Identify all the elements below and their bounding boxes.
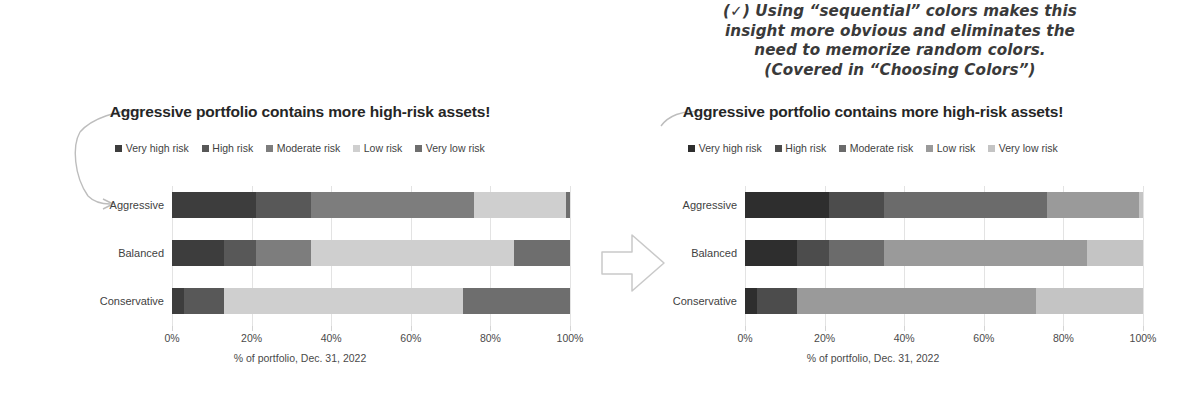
legend-item-low-risk: Low risk bbox=[926, 142, 975, 154]
bar-segment[interactable] bbox=[172, 192, 256, 218]
category-label-conservative: Conservative bbox=[615, 288, 737, 314]
x-tick-mark bbox=[1143, 326, 1144, 331]
chart-panel-random-colors: Aggressive portfolio contains more high-… bbox=[0, 0, 600, 405]
legend-swatch-icon bbox=[353, 145, 360, 152]
legend-swatch-icon bbox=[688, 145, 695, 152]
legend-swatch-icon bbox=[415, 145, 422, 152]
bar-segment[interactable] bbox=[311, 240, 514, 266]
x-tick-mark bbox=[570, 326, 571, 331]
bar-segment[interactable] bbox=[745, 240, 797, 266]
x-tick-mark bbox=[825, 326, 826, 331]
legend-item-moderate-risk: Moderate risk bbox=[266, 142, 340, 154]
bar-segment[interactable] bbox=[757, 288, 797, 314]
bar-segment[interactable] bbox=[829, 240, 885, 266]
legend-swatch-icon bbox=[202, 145, 209, 152]
legend-swatch-icon bbox=[926, 145, 933, 152]
x-tick-mark bbox=[745, 326, 746, 331]
legend-label: Moderate risk bbox=[277, 142, 341, 154]
legend-swatch-icon bbox=[115, 145, 122, 152]
legend-label: Moderate risk bbox=[850, 142, 914, 154]
legend-label: Very high risk bbox=[126, 142, 189, 154]
bar-segment[interactable] bbox=[797, 240, 829, 266]
legend-label: Low risk bbox=[937, 142, 976, 154]
x-tick-label: 60% bbox=[400, 332, 421, 344]
bar-segment[interactable] bbox=[829, 192, 885, 218]
category-label-conservative: Conservative bbox=[42, 288, 164, 314]
bar-conservative[interactable] bbox=[745, 288, 1143, 314]
legend-label: Very low risk bbox=[426, 142, 485, 154]
x-tick-mark bbox=[490, 326, 491, 331]
x-tick-mark bbox=[984, 326, 985, 331]
x-tick-label: 100% bbox=[1130, 332, 1157, 344]
x-tick-mark bbox=[172, 326, 173, 331]
x-tick-label: 40% bbox=[894, 332, 915, 344]
x-tick-label: 80% bbox=[480, 332, 501, 344]
bar-segment[interactable] bbox=[884, 240, 1087, 266]
legend-swatch-icon bbox=[839, 145, 846, 152]
x-tick-label: 40% bbox=[321, 332, 342, 344]
chart-legend: Very high risk High risk Moderate risk L… bbox=[573, 142, 1173, 154]
legend-item-high-risk: High risk bbox=[775, 142, 826, 154]
x-axis: 0%20%40%60%80%100% bbox=[745, 332, 1143, 348]
bar-segment[interactable] bbox=[514, 240, 570, 266]
bar-segment[interactable] bbox=[797, 288, 1036, 314]
bar-balanced[interactable] bbox=[745, 240, 1143, 266]
bar-segment[interactable] bbox=[566, 192, 570, 218]
chart-title: Aggressive portfolio contains more high-… bbox=[0, 103, 600, 121]
legend-item-moderate-risk: Moderate risk bbox=[839, 142, 913, 154]
category-label-aggressive: Aggressive bbox=[42, 192, 164, 218]
plot-area bbox=[745, 186, 1143, 326]
legend-label: High risk bbox=[785, 142, 826, 154]
x-tick-mark bbox=[411, 326, 412, 331]
legend-label: Low risk bbox=[364, 142, 403, 154]
legend-item-low-risk: Low risk bbox=[353, 142, 402, 154]
legend-item-very-high-risk: Very high risk bbox=[115, 142, 189, 154]
bar-aggressive[interactable] bbox=[745, 192, 1143, 218]
category-label-balanced: Balanced bbox=[615, 240, 737, 266]
bar-segment[interactable] bbox=[224, 240, 256, 266]
bar-segment[interactable] bbox=[184, 288, 224, 314]
category-label-balanced: Balanced bbox=[42, 240, 164, 266]
bar-segment[interactable] bbox=[745, 288, 757, 314]
bar-segment[interactable] bbox=[311, 192, 474, 218]
x-tick-label: 60% bbox=[973, 332, 994, 344]
legend-swatch-icon bbox=[988, 145, 995, 152]
legend-item-very-low-risk: Very low risk bbox=[988, 142, 1057, 154]
chart-panel-sequential-colors: Aggressive portfolio contains more high-… bbox=[573, 0, 1173, 405]
legend-swatch-icon bbox=[266, 145, 273, 152]
chart-title: Aggressive portfolio contains more high-… bbox=[573, 103, 1173, 121]
bar-segment[interactable] bbox=[1036, 288, 1143, 314]
bar-segment[interactable] bbox=[463, 288, 570, 314]
x-axis-label: % of portfolio, Dec. 31, 2022 bbox=[573, 352, 1173, 364]
bar-conservative[interactable] bbox=[172, 288, 570, 314]
legend-label: High risk bbox=[212, 142, 253, 154]
x-tick-label: 80% bbox=[1053, 332, 1074, 344]
bar-segment[interactable] bbox=[1139, 192, 1143, 218]
x-axis: 0%20%40%60%80%100% bbox=[172, 332, 570, 348]
x-tick-label: 20% bbox=[814, 332, 835, 344]
x-tick-label: 0% bbox=[737, 332, 752, 344]
x-tick-mark bbox=[904, 326, 905, 331]
bar-segment[interactable] bbox=[884, 192, 1047, 218]
bar-segment[interactable] bbox=[474, 192, 566, 218]
x-tick-mark bbox=[1063, 326, 1064, 331]
x-tick-label: 0% bbox=[164, 332, 179, 344]
bar-segment[interactable] bbox=[745, 192, 829, 218]
bar-segment[interactable] bbox=[256, 240, 312, 266]
category-label-aggressive: Aggressive bbox=[615, 192, 737, 218]
x-tick-mark bbox=[331, 326, 332, 331]
bar-segment[interactable] bbox=[172, 240, 224, 266]
bar-segment[interactable] bbox=[256, 192, 312, 218]
legend-label: Very high risk bbox=[699, 142, 762, 154]
bar-segment[interactable] bbox=[172, 288, 184, 314]
bar-segment[interactable] bbox=[1047, 192, 1139, 218]
bar-segment[interactable] bbox=[1087, 240, 1143, 266]
x-tick-label: 20% bbox=[241, 332, 262, 344]
x-axis-label: % of portfolio, Dec. 31, 2022 bbox=[0, 352, 600, 364]
bar-balanced[interactable] bbox=[172, 240, 570, 266]
bar-segment[interactable] bbox=[224, 288, 463, 314]
bar-aggressive[interactable] bbox=[172, 192, 570, 218]
legend-label: Very low risk bbox=[999, 142, 1058, 154]
chart-legend: Very high risk High risk Moderate risk L… bbox=[0, 142, 600, 154]
legend-item-very-high-risk: Very high risk bbox=[688, 142, 762, 154]
